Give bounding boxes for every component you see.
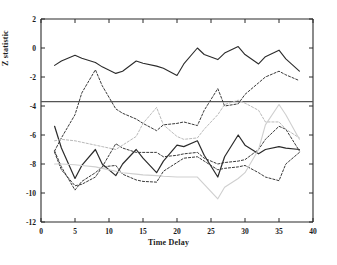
x-tick-label: 5 <box>73 227 77 236</box>
x-tick-label: 20 <box>173 227 181 236</box>
x-tick-label: 40 <box>309 227 317 236</box>
data-series-layer <box>55 47 300 199</box>
x-tick-label: 0 <box>39 227 43 236</box>
x-axis-label: Time Delay <box>0 238 337 247</box>
y-tick-label: 2 <box>32 15 36 24</box>
y-tick-label: 0 <box>32 44 36 53</box>
series-2-upper-dashed <box>55 70 300 151</box>
plot-axes <box>41 19 313 222</box>
chart-figure: 0510152025303540 20-2-4-6-8-10-12 Z stat… <box>0 0 337 265</box>
series-1-upper-solid <box>55 47 300 76</box>
x-tick-label: 25 <box>207 227 215 236</box>
y-tick-label: -4 <box>30 102 36 111</box>
line-chart-canvas: 0510152025303540 20-2-4-6-8-10-12 <box>0 0 337 265</box>
y-tick-label: -6 <box>30 131 36 140</box>
y-tick-label: -2 <box>30 73 36 82</box>
y-tick-label: -12 <box>26 218 36 227</box>
x-tick-label: 15 <box>139 227 147 236</box>
y-tick-label: -10 <box>26 189 36 198</box>
series-6-gray-dashed-a <box>55 100 300 149</box>
series-5-lower-dashed-b <box>55 152 300 185</box>
x-tick-label: 10 <box>105 227 113 236</box>
x-tick-label: 35 <box>275 227 283 236</box>
y-axis-ticks: 20-2-4-6-8-10-12 <box>26 15 313 227</box>
x-tick-label: 30 <box>241 227 249 236</box>
y-tick-label: -8 <box>30 160 36 169</box>
y-axis-label: Z statistic <box>1 8 10 88</box>
